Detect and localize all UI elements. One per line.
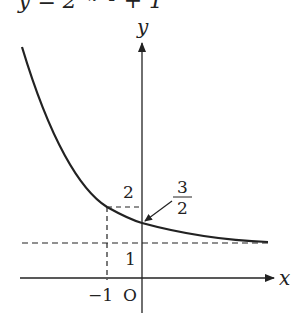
- fraction-numerator: 3: [177, 177, 188, 197]
- y-axis-label: y: [136, 15, 149, 39]
- tick-label-1: 1: [125, 249, 136, 269]
- tick-label-neg1: −1: [88, 285, 113, 305]
- function-curve: [22, 47, 268, 242]
- tick-label-2: 2: [123, 182, 134, 202]
- fraction-denominator: 2: [177, 198, 188, 218]
- pointer-arrow: [145, 201, 172, 221]
- origin-label: O: [123, 285, 137, 305]
- graph: y x 2 1 −1 O 3 2: [0, 0, 308, 331]
- x-axis-label: x: [279, 266, 290, 290]
